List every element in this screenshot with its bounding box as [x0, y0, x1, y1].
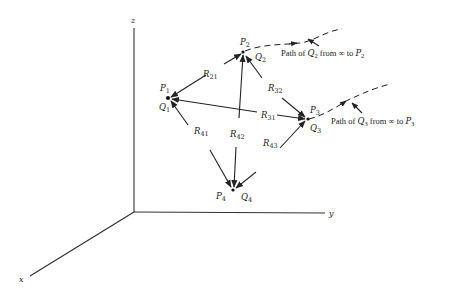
label-p4: P4: [215, 191, 226, 203]
label-r41: R41: [193, 126, 209, 138]
vector-r43: [236, 172, 256, 188]
charge-paths: [245, 29, 390, 119]
label-r32: R32: [267, 83, 283, 95]
label-p1: P1: [159, 83, 170, 95]
label-r43: R43: [262, 138, 278, 150]
z-axis-label: z: [130, 16, 136, 25]
vector-r31: [172, 99, 257, 112]
label-p2: P2: [239, 37, 250, 49]
path-q2-annotation: Path of Q2 from ∞ to P2: [281, 48, 364, 59]
separation-vectors: [171, 54, 305, 188]
path-q3-curve: [309, 84, 390, 119]
y-axis-label: y: [328, 209, 334, 218]
label-r31: R31: [260, 110, 276, 122]
path-q2-pointer: [308, 39, 319, 46]
label-p3: P3: [309, 105, 320, 117]
point-labels: P1 Q1 P2 Q2 P3 Q3 P4 Q4: [159, 37, 321, 204]
path-annotations: Path of Q2 from ∞ to P2 Path of Q3 from …: [281, 48, 414, 127]
x-axis: [30, 212, 134, 276]
label-q2: Q2: [255, 52, 266, 64]
vector-r41: [171, 101, 188, 125]
point-p4: [231, 188, 234, 191]
x-axis-label: x: [19, 275, 24, 284]
label-q4: Q4: [241, 192, 252, 204]
label-q1: Q1: [159, 102, 170, 114]
charge-configuration-diagram: z y x R21 R32 R31 R41 R42 R4: [0, 0, 450, 297]
path-q3-pointer: [352, 103, 362, 113]
charge-points: [166, 50, 310, 191]
label-q3: Q3: [310, 123, 321, 135]
vector-r42: [239, 55, 243, 118]
y-axis: [134, 212, 325, 213]
point-p1: [166, 96, 170, 100]
label-r21: R21: [202, 69, 218, 81]
vector-r21: [171, 75, 206, 97]
path-q3-annotation: Path of Q3 from ∞ to P3: [331, 116, 414, 127]
label-r42: R42: [229, 129, 245, 141]
point-p2: [241, 50, 244, 53]
